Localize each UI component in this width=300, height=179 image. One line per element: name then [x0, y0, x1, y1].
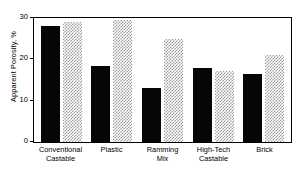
bar-group-high-tech-castable — [188, 18, 239, 142]
plot-area: 0 10 20 30 — [33, 17, 292, 143]
bar-group-conventional-castable — [36, 18, 87, 142]
x-label-line-2: Castable — [35, 154, 86, 163]
bar-hatch-plastic — [113, 20, 132, 142]
x-label-line-1: Ramming — [137, 145, 188, 154]
bar-groups — [34, 18, 291, 142]
x-label-line-1: Conventional — [35, 145, 86, 154]
y-axis-title: Apparent Porosity, % — [9, 2, 18, 132]
x-axis-labels: Conventional Castable Plastic Ramming Mi… — [33, 145, 292, 164]
x-label-ramming-mix: Ramming Mix — [137, 145, 188, 164]
bar-group-ramming-mix — [137, 18, 188, 142]
y-tick-label-30: 30 — [20, 12, 28, 21]
bar-solid-ramming-mix — [142, 88, 161, 142]
y-tick-label-20: 20 — [20, 53, 28, 62]
x-label-line-1: Plastic — [86, 145, 137, 154]
x-label-line-1: High-Tech — [188, 145, 239, 154]
bar-group-brick — [238, 18, 289, 142]
bar-solid-brick — [243, 74, 262, 142]
bar-hatch-high-tech-castable — [215, 71, 234, 143]
y-tick-label-10: 10 — [20, 95, 28, 104]
bar-solid-conventional-castable — [41, 26, 60, 142]
bar-hatch-brick — [265, 55, 284, 142]
bar-group-plastic — [87, 18, 138, 142]
x-label-plastic: Plastic — [86, 145, 137, 164]
bar-hatch-ramming-mix — [164, 39, 183, 142]
y-tick-label-0: 0 — [24, 136, 28, 145]
bar-solid-high-tech-castable — [193, 68, 212, 142]
chart-figure: Apparent Porosity, % 0 10 20 30 — [0, 0, 300, 179]
bar-hatch-conventional-castable — [63, 22, 82, 142]
x-label-brick: Brick — [239, 145, 290, 164]
x-label-line-2: Mix — [137, 154, 188, 163]
x-label-line-2: Castable — [188, 154, 239, 163]
bar-solid-plastic — [91, 66, 110, 142]
x-label-line-1: Brick — [239, 145, 290, 154]
x-label-conventional-castable: Conventional Castable — [35, 145, 86, 164]
x-label-high-tech-castable: High-Tech Castable — [188, 145, 239, 164]
